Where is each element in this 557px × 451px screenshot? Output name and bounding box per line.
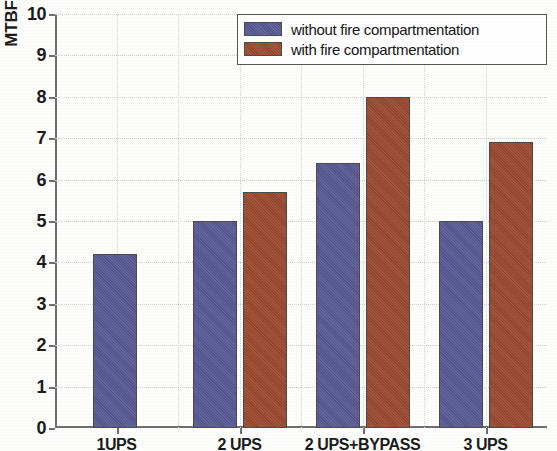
x-tick-label: 2 UPS+BYPASS — [305, 436, 420, 451]
gridline-vertical — [486, 14, 487, 428]
chart-legend: without fire compartmentation with fire … — [237, 14, 547, 65]
y-tick-mark — [49, 262, 55, 264]
legend-item: with fire compartmentation — [244, 39, 539, 59]
y-tick-mark — [49, 221, 55, 223]
y-tick-label: 6 — [36, 169, 46, 190]
x-tick-label: 1UPS — [96, 436, 136, 451]
y-tick-label: 3 — [36, 293, 46, 314]
legend-item: without fire compartmentation — [244, 19, 539, 39]
y-tick-label: 9 — [36, 45, 46, 66]
y-tick-mark — [49, 97, 55, 99]
y-tick-mark — [49, 304, 55, 306]
y-tick-mark — [49, 428, 55, 430]
y-tick-label: 7 — [36, 128, 46, 149]
bar — [93, 254, 137, 428]
bar-chart: MTBF (years) 012345678910 1UPS2 UPS2 UPS… — [0, 0, 557, 451]
x-tick-label: 3 UPS — [463, 436, 507, 451]
bar — [366, 97, 410, 428]
gridline-vertical — [240, 14, 241, 428]
y-tick-label: 1 — [36, 376, 46, 397]
y-tick-label: 0 — [36, 418, 46, 439]
y-axis-title-wrapper: MTBF (years) — [0, 120, 24, 320]
y-tick-label: 5 — [36, 211, 46, 232]
x-tick-mark — [486, 428, 488, 434]
x-tick-mark — [363, 428, 365, 434]
bar — [439, 221, 483, 428]
legend-swatch-icon — [244, 22, 282, 36]
legend-item-label: without fire compartmentation — [291, 21, 479, 38]
x-tick-mark — [240, 428, 242, 434]
x-tick-mark — [117, 428, 119, 434]
bar — [193, 221, 237, 428]
y-tick-mark — [49, 14, 55, 16]
legend-swatch-icon — [244, 42, 282, 56]
y-axis-title: MTBF (years) — [2, 0, 26, 144]
y-tick-mark — [49, 55, 55, 57]
y-tick-mark — [49, 138, 55, 140]
x-tick-label: 2 UPS — [217, 436, 261, 451]
bar — [489, 142, 533, 428]
y-tick-label: 10 — [27, 4, 46, 25]
y-tick-mark — [49, 180, 55, 182]
bar — [316, 163, 360, 428]
y-tick-label: 4 — [36, 252, 46, 273]
gridline-vertical — [363, 14, 364, 428]
plot-area: 012345678910 1UPS2 UPS2 UPS+BYPASS3 UPS — [55, 14, 547, 428]
y-tick-label: 8 — [36, 86, 46, 107]
y-tick-mark — [49, 387, 55, 389]
y-tick-mark — [49, 345, 55, 347]
gridline-vertical — [178, 14, 179, 428]
legend-item-label: with fire compartmentation — [291, 41, 459, 58]
gridline-vertical — [301, 14, 302, 428]
y-tick-label: 2 — [36, 335, 46, 356]
gridline-vertical — [424, 14, 425, 428]
bar — [243, 192, 287, 428]
